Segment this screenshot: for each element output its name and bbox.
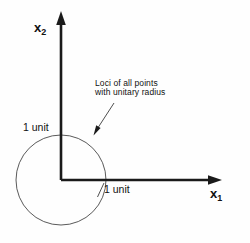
annotation-arrowhead (94, 125, 101, 135)
annotation-leader-line (97, 103, 115, 130)
x2-axis-arrowhead (56, 11, 66, 25)
x1-axis-label-subscript: 1 (217, 193, 222, 203)
x2-axis-label: x2 (34, 21, 46, 38)
x1-unit-label: 1 unit (104, 184, 130, 195)
x1-axis-label: x1 (210, 187, 222, 204)
x2-axis-label-subscript: 2 (41, 27, 46, 37)
loci-annotation: Loci of all points with unitary radius (95, 79, 165, 97)
x2-unit-label: 1 unit (23, 122, 49, 133)
figure-canvas: x2 x1 1 unit 1 unit Loci of all points w… (0, 0, 250, 243)
x1-axis-arrowhead (208, 175, 222, 185)
loci-annotation-line2: with unitary radius (95, 88, 165, 97)
